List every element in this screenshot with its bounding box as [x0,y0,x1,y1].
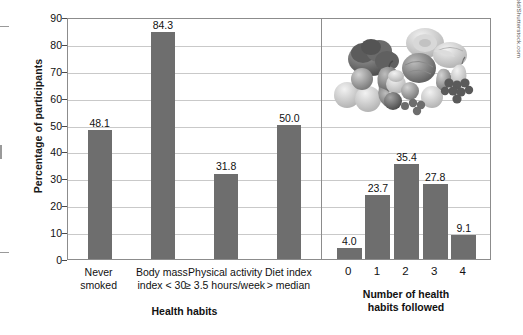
x-axis-number-label: 2 [396,265,416,277]
y-axis-tick-label: 60 [36,93,62,105]
y-axis-tick-mark [62,260,67,261]
panel-divider [321,19,322,259]
bar-value-label: 27.8 [410,171,460,183]
scan-artifact-middle [0,145,2,159]
x-axis-number-label: 3 [424,265,444,277]
y-axis-tick-mark [62,233,67,234]
y-axis-tick-label: 40 [36,146,62,158]
right-x-title-line-1: Number of health [320,288,492,301]
x-axis-number-label: 4 [453,265,473,277]
y-axis-tick-mark [62,45,67,46]
image-credit: Illustration © Cengage Learning®; photo:… [516,0,523,58]
y-axis-tick-label: 20 [36,200,62,212]
y-axis-tick-label: 90 [36,12,62,24]
bar [151,32,175,259]
bar-value-label: 35.4 [382,151,432,163]
scan-artifact-bottom [0,252,9,253]
right-x-title-line-2: habits followed [320,301,492,314]
bar-value-label: 48.1 [75,117,125,129]
y-axis-tick-mark [62,99,67,100]
bar [214,174,238,260]
y-axis-tick-label: 30 [36,173,62,185]
x-axis-number-label: 1 [367,265,387,277]
y-axis-tick-mark [62,179,67,180]
bar-value-label: 9.1 [439,222,489,234]
scan-artifact-top [0,26,9,27]
bar [337,248,362,259]
bar [451,235,476,259]
bar-value-label: 50.0 [264,112,314,124]
bar-value-label: 84.3 [138,19,188,31]
y-axis-tick-label: 70 [36,66,62,78]
fruits-and-vegetables-photo [333,21,483,116]
bar-value-label: 31.8 [201,160,251,172]
bar [88,130,112,259]
y-axis-tick-label: 10 [36,227,62,239]
right-panel-x-axis-title: Number of health habits followed [320,288,492,314]
y-axis-tick-mark [62,206,67,207]
category-label-line: Diet index [233,266,343,279]
y-axis-tick-label: 0 [36,254,62,266]
left-panel-x-axis-title: Health habits [67,305,302,318]
bar [365,195,390,259]
x-axis-number-label: 0 [338,265,358,277]
y-axis-tick-mark [62,152,67,153]
plot-area: 48.184.331.850.0 4.023.735.427.89.1 [67,18,491,260]
y-axis-tick-label: 50 [36,120,62,132]
bar [277,125,301,259]
y-axis-tick-mark [62,18,67,19]
y-axis-tick-mark [62,126,67,127]
y-axis-tick-mark [62,72,67,73]
y-axis-tick-label: 80 [36,39,62,51]
